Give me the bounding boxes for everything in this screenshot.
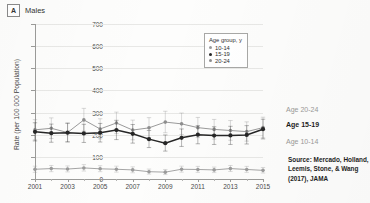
series-annotation-15-19: Age 15-19	[286, 121, 319, 128]
data-point	[33, 130, 37, 134]
data-point	[147, 170, 151, 174]
legend-label-15-19: 15-19	[215, 51, 230, 57]
data-point	[49, 131, 53, 135]
legend-label-20-24: 20-24	[215, 58, 230, 64]
legend-label-10-14: 10-14	[215, 45, 230, 51]
data-point	[212, 168, 216, 172]
data-point	[82, 166, 86, 170]
data-point	[180, 167, 184, 171]
data-point	[33, 167, 37, 171]
panel-title: Males	[25, 6, 45, 15]
data-point	[114, 128, 118, 132]
data-point	[98, 167, 102, 171]
data-point	[115, 167, 119, 171]
data-point	[196, 133, 200, 137]
series-10-14	[33, 165, 265, 175]
data-point	[163, 120, 167, 124]
data-point	[131, 168, 135, 172]
data-point	[261, 127, 265, 131]
legend-title: Age group, y	[209, 37, 242, 43]
source-citation: Source: Mercado, Holland, Leemis, Stone,…	[288, 155, 370, 183]
data-point	[65, 131, 69, 135]
legend-item-15-19: 15-19	[209, 51, 242, 57]
data-point	[82, 131, 86, 135]
data-point	[98, 131, 102, 135]
data-point	[196, 168, 200, 172]
legend-marker-15-19	[209, 53, 212, 56]
data-point	[147, 137, 151, 141]
data-point	[245, 133, 249, 137]
data-point	[245, 168, 249, 172]
series-annotation-10-14: Age 10-14	[286, 138, 318, 145]
data-point	[82, 118, 86, 122]
data-point	[180, 122, 184, 126]
data-point	[163, 170, 167, 174]
data-point	[261, 169, 265, 173]
data-point	[212, 134, 216, 138]
legend-marker-10-14	[209, 46, 212, 49]
legend-item-10-14: 10-14	[209, 45, 242, 51]
legend-item-20-24: 20-24	[209, 58, 242, 64]
legend: Age group, y 10-14 15-19 20-24	[204, 33, 248, 68]
legend-marker-20-24	[209, 59, 212, 62]
data-point	[147, 126, 151, 130]
series-annotation-20-24: Age 20-24	[286, 106, 318, 113]
panel-label: A Males	[7, 4, 45, 17]
data-point	[66, 167, 70, 171]
data-point	[49, 167, 53, 171]
data-point	[229, 167, 233, 171]
data-point	[228, 133, 232, 137]
data-point	[179, 136, 183, 140]
data-point	[131, 132, 135, 136]
data-point	[163, 141, 167, 145]
panel-letter: A	[7, 4, 20, 17]
